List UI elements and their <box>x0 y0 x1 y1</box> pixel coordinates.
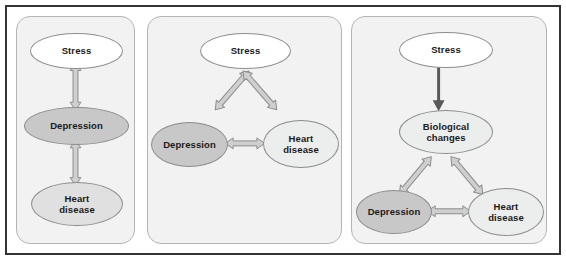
panel-model-b: Stress Depression Heart disease <box>147 16 342 244</box>
node-stress-label: Stress <box>231 45 261 56</box>
arrow-stress-biological-changes <box>433 63 445 112</box>
figure-root: Stress Depression Heart disease <box>0 0 566 260</box>
panel-model-c: Stress Biological changes Depression Hea… <box>351 16 547 244</box>
node-depression-label: Depression <box>50 120 103 131</box>
arrow-depression-heart-disease <box>427 206 471 217</box>
arrow-depression-heart-disease <box>70 140 81 186</box>
node-stress[interactable]: Stress <box>200 33 291 69</box>
panel-model-a: Stress Depression Heart disease <box>16 16 135 244</box>
node-biological-changes-label: Biological changes <box>423 121 469 143</box>
node-heart-disease-label: Heart disease <box>59 193 95 215</box>
arrow-biological-changes-heart-disease <box>447 153 487 198</box>
node-stress-label: Stress <box>62 45 92 56</box>
node-stress[interactable]: Stress <box>399 32 493 68</box>
node-biological-changes[interactable]: Biological changes <box>399 110 493 154</box>
arrow-stress-depression <box>211 67 253 113</box>
node-heart-disease[interactable]: Heart disease <box>468 188 544 236</box>
node-depression-label: Depression <box>368 206 421 217</box>
node-depression[interactable]: Depression <box>356 190 432 234</box>
arrow-stress-heart-disease <box>239 67 281 113</box>
node-depression[interactable]: Depression <box>151 122 228 167</box>
node-heart-disease-label: Heart disease <box>488 201 524 223</box>
arrow-depression-heart-disease <box>225 138 265 149</box>
node-stress[interactable]: Stress <box>30 33 123 69</box>
node-heart-disease[interactable]: Heart disease <box>263 120 339 168</box>
node-depression[interactable]: Depression <box>24 107 129 145</box>
node-heart-disease-label: Heart disease <box>283 133 319 155</box>
arrow-stress-depression <box>70 63 81 111</box>
node-heart-disease[interactable]: Heart disease <box>31 182 123 226</box>
node-stress-label: Stress <box>431 44 461 55</box>
node-depression-label: Depression <box>163 139 216 150</box>
